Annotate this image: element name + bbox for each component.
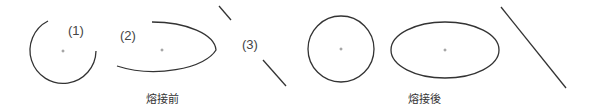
after-panel: 熔接後 bbox=[308, 7, 566, 106]
center-mark bbox=[444, 49, 447, 52]
line-segment-lower bbox=[263, 60, 286, 86]
center-mark bbox=[340, 48, 343, 51]
shape-2-label: (2) bbox=[120, 28, 136, 43]
shape-3-continuous-line bbox=[501, 7, 566, 88]
shape-1-closed-circle bbox=[308, 16, 374, 82]
line bbox=[501, 7, 566, 88]
center-mark bbox=[161, 49, 164, 52]
shape-3-broken-line: (3) bbox=[219, 6, 286, 86]
shape-1-open-circle: (1) bbox=[30, 21, 96, 83]
shape-1-label: (1) bbox=[68, 23, 84, 38]
before-panel: (1) (2) (3) 熔接前 bbox=[30, 6, 286, 106]
center-mark bbox=[62, 50, 65, 53]
line-segment-upper bbox=[219, 6, 231, 20]
shape-3-label: (3) bbox=[242, 37, 258, 52]
shape-2-closed-ellipse bbox=[391, 22, 499, 78]
shape-2-open-ellipse: (2) bbox=[117, 22, 216, 71]
weld-diagram: (1) (2) (3) 熔接前 bbox=[0, 0, 593, 112]
after-caption: 熔接後 bbox=[408, 92, 441, 106]
before-caption: 熔接前 bbox=[146, 92, 179, 106]
